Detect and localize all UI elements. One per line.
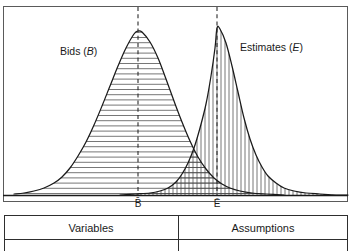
figure-background [0,0,352,251]
bids-mean-tick-label: B̄ [135,197,142,209]
estimates-series-label: Estimates (E) [240,41,303,53]
estimates-mean-tick-label: Ē [214,198,221,209]
figure-root: Bids (B) Estimates (E) B̄ Ē Variables A… [0,0,352,251]
table-header-assumptions: Assumptions [232,222,295,234]
table-header-variables: Variables [68,222,114,234]
bids-series-label: Bids (B) [60,45,97,57]
bids-estimates-distribution-figure: Bids (B) Estimates (E) B̄ Ē Variables A… [0,0,352,251]
